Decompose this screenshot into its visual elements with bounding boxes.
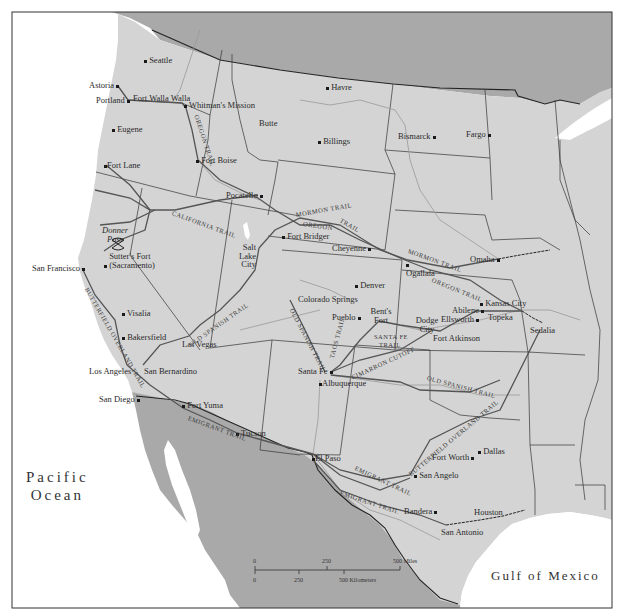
city-dot-icon — [112, 129, 115, 132]
city-astoria: Astoria — [89, 81, 119, 90]
city-dot-icon — [355, 285, 358, 288]
city-dot-icon — [127, 100, 130, 103]
gulf-of-mexico-label: Gulf of Mexico — [491, 568, 600, 584]
city-dodge-city: Dodge City — [415, 316, 439, 333]
city-kansas-city: Kansas City — [480, 299, 526, 308]
city-bandera: Bandera — [404, 507, 437, 516]
label-donner-pass: DonnerPass — [102, 226, 128, 243]
city-topeka: Topeka — [488, 313, 513, 322]
city-dot-icon — [122, 337, 125, 340]
scale-km-0: 0 — [253, 577, 256, 583]
city-dot-icon — [82, 268, 85, 271]
city-dallas: Dallas — [478, 447, 505, 456]
city-fort-bridger: Fort Bridger — [282, 232, 329, 241]
city-dot-icon — [478, 451, 481, 454]
scale-miles-500: 500 Miles — [393, 558, 417, 564]
city-pueblo: Pueblo — [332, 313, 361, 322]
city-bakersfield: Bakersfield — [122, 333, 166, 342]
city-dot-icon — [330, 371, 333, 374]
city-fort-lane: Fort Lane — [104, 161, 140, 170]
city-dot-icon — [471, 457, 474, 460]
city-dot-icon — [116, 85, 119, 88]
city-dot-icon — [476, 319, 479, 322]
city-dot-icon — [481, 310, 484, 313]
city-dot-icon — [282, 236, 285, 239]
city-houston: Houston — [474, 508, 503, 517]
city-salt-lake-city: Salt Lake City — [226, 243, 256, 269]
city-dot-icon — [182, 405, 185, 408]
city-cheyenne: Cheyenne — [332, 244, 371, 253]
city-bismarck: Bismarck — [398, 132, 436, 141]
city-denver: Denver — [355, 281, 385, 290]
city-dot-icon — [406, 264, 409, 267]
trail-label-santa-fe-b: TRAIL — [379, 342, 401, 349]
city-dot-icon — [184, 105, 187, 108]
city-bents-fort: Bent's Fort — [369, 307, 393, 324]
city-dot-icon — [434, 511, 437, 514]
city-fort-boise: Fort Boise — [196, 156, 237, 165]
city-fort-atkinson: Fort Atkinson — [433, 334, 480, 343]
city-fort-yuma: Fort Yuma — [182, 401, 223, 410]
city-dot-icon — [137, 399, 140, 402]
city-san-francisco: San Francisco — [32, 264, 85, 273]
city-billings: Billings — [318, 137, 350, 146]
city-san-bernardino: San Bernardino — [144, 367, 197, 376]
city-butte: Butte — [259, 119, 277, 128]
city-ellsworth: Ellsworth — [441, 315, 479, 324]
scale-miles-250: 250 — [322, 558, 331, 564]
city-havre: Havre — [326, 83, 352, 92]
city-dot-icon — [144, 60, 147, 63]
scale-km-250: 250 — [294, 577, 303, 583]
city-omaha: Omaha — [470, 255, 500, 264]
city-fargo: Fargo — [466, 130, 491, 139]
trail-label-santa-fe-a: SANTA FE — [374, 334, 408, 341]
city-fort-walla-walla: Fort Walla Walla — [133, 94, 190, 103]
pacific-label-line1: Pacific — [26, 468, 89, 486]
city-dot-icon — [196, 160, 199, 163]
city-dot-icon — [497, 259, 500, 262]
city-seattle: Seattle — [144, 56, 172, 65]
city-los-angeles: Los Angeles — [89, 367, 131, 376]
city-dot-icon — [318, 141, 321, 144]
city-san-antonio: San Antonio — [441, 528, 483, 537]
city-san-angelo: San Angelo — [414, 471, 459, 480]
city-dot-icon — [260, 195, 263, 198]
city-dot-icon — [368, 248, 371, 251]
city-whitmans-mission: Whitman's Mission — [184, 101, 255, 110]
pacific-ocean-label: Pacific Ocean — [26, 468, 89, 504]
city-dot-icon — [326, 87, 329, 90]
scale-km-500: 500 Kilometers — [339, 577, 376, 583]
city-portland: Portland — [96, 96, 130, 105]
city-dot-icon — [433, 136, 436, 139]
city-dot-icon — [358, 317, 361, 320]
city-colorado-springs: Colorado Springs — [298, 295, 358, 304]
city-sutters-fort: Sutter's Fort (Sacramento) — [104, 252, 169, 271]
city-dot-icon — [104, 265, 107, 268]
city-el-paso: El Paso — [312, 454, 341, 463]
pacific-label-line2: Ocean — [26, 486, 89, 504]
city-san-diego: San Diego — [99, 395, 140, 404]
city-sedalia: Sedalia — [530, 326, 555, 335]
city-albuquerque: Albuquerque — [319, 379, 366, 388]
city-pocatello: Pocatello — [226, 191, 263, 200]
city-dot-icon — [122, 313, 125, 316]
city-dot-icon — [488, 134, 491, 137]
city-visalia: Visalia — [122, 309, 151, 318]
scale-miles-0: 0 — [253, 558, 256, 564]
city-eugene: Eugene — [112, 125, 143, 134]
